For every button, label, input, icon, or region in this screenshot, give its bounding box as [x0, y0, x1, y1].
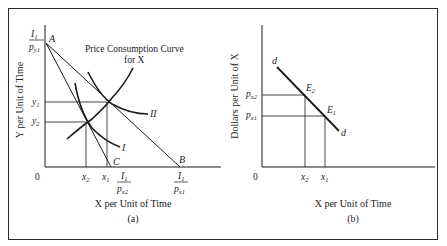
point-B-label: B [179, 154, 185, 165]
caption-b: (b) [347, 213, 359, 225]
y-axis-title-a: Y per Unit of Time [14, 61, 25, 138]
price-consumption-curve [67, 68, 133, 139]
diagram: A B C I II Price Consumption Curve for X… [0, 0, 447, 246]
px1-tick: px1 [245, 110, 257, 121]
y2-tick: y2 [31, 116, 40, 127]
x1-tick-a: x1 [101, 172, 109, 183]
demand-curve [277, 67, 339, 131]
E2-label: E2 [305, 83, 316, 94]
guide-px1 [262, 116, 325, 167]
B-intercept-label: I1 px1 [173, 171, 188, 195]
x2-tick-b: x2 [300, 172, 309, 183]
svg-text:px2: px2 [116, 184, 129, 195]
indifference-curve-II [88, 72, 148, 114]
svg-text:I1: I1 [177, 171, 184, 182]
svg-text:I1: I1 [120, 171, 127, 182]
curve-I-label: I [121, 142, 126, 153]
x-axis-title-a: X per Unit of Time [95, 198, 172, 209]
pcc-label-line1: Price Consumption Curve [85, 44, 184, 54]
curve-II-label: II [149, 108, 157, 119]
point-C-label: C [113, 156, 120, 167]
point-A-label: A [48, 33, 56, 44]
x2-tick-a: x2 [81, 172, 90, 183]
svg-text:I1: I1 [30, 29, 37, 40]
guide-px2 [262, 95, 305, 167]
y-intercept-label: I1 py1 [28, 29, 44, 53]
demand-label-bottom: d [341, 127, 347, 138]
E1-label: E1 [326, 105, 336, 116]
y-axis-title-b: Dollars per Unit of X [229, 52, 240, 138]
px2-tick: px2 [245, 89, 258, 100]
panel-b: d d E2 E1 px2 px1 0 x2 x1 X per Unit of … [229, 25, 435, 225]
x1-tick-b: x1 [320, 172, 328, 183]
y1-tick: y1 [31, 97, 39, 108]
origin-b: 0 [253, 172, 258, 182]
caption-a: (a) [127, 213, 138, 225]
pcc-label-line2: for X [124, 55, 144, 65]
budget-line-AC [46, 43, 111, 167]
origin-a: 0 [35, 172, 40, 182]
indifference-curve-I [75, 83, 120, 147]
svg-text:px1: px1 [173, 184, 185, 195]
panel-a: A B C I II Price Consumption Curve for X… [14, 25, 221, 225]
svg-text:py1: py1 [28, 42, 40, 53]
C-intercept-label: I1 px2 [116, 171, 131, 195]
x-axis-title-b: X per Unit of Time [315, 198, 392, 209]
demand-label-top: d [272, 55, 278, 66]
